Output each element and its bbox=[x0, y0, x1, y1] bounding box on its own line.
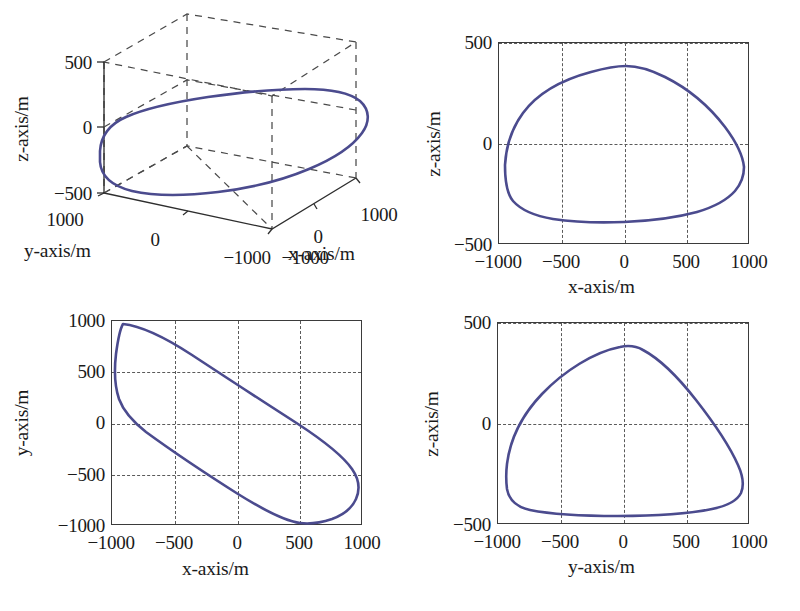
axis-title-yz-y: y-axis/m bbox=[568, 556, 635, 578]
box3d-floor bbox=[104, 146, 356, 229]
tick-yz-z-500: 500 bbox=[435, 313, 491, 332]
panel-xy-projection: 1000 500 0 −500 −1000 −1000 −500 0 500 1… bbox=[0, 290, 400, 590]
tick-yz-y-0: 0 bbox=[618, 532, 627, 551]
panel-xy-canvas bbox=[112, 321, 363, 526]
tick-yz-y-neg500: −500 bbox=[541, 532, 579, 551]
tick-yz-y-neg1000: −1000 bbox=[473, 532, 520, 551]
tick-xz-x-0: 0 bbox=[619, 252, 628, 271]
tick-yz-z-0: 0 bbox=[435, 414, 491, 433]
plotbox-xz bbox=[498, 42, 749, 244]
axis-title-xy-y: y-axis/m bbox=[11, 373, 33, 473]
tick-3d-z-500: 500 bbox=[40, 53, 92, 72]
axis-title-3d-z: z-axis/m bbox=[11, 79, 33, 179]
tick-3d-y-0: 0 bbox=[150, 230, 159, 249]
axis3d-z bbox=[97, 62, 356, 193]
trajectory-curve-xz bbox=[505, 66, 744, 222]
tick-3d-z-0: 0 bbox=[40, 118, 92, 137]
tick-xy-x-1000: 1000 bbox=[344, 533, 381, 552]
trajectory-curve-yz bbox=[506, 346, 742, 516]
figure-caption bbox=[0, 599, 800, 611]
axis-title-yz-z: z-axis/m bbox=[421, 374, 443, 474]
tick-xy-x-500: 500 bbox=[285, 533, 313, 552]
tick-xy-x-0: 0 bbox=[232, 533, 241, 552]
panel-yz-canvas bbox=[498, 323, 750, 525]
figure-root: 500 0 −500 1000 0 −1000 −1000 0 1000 z-a… bbox=[0, 0, 800, 611]
box3d-back-frame bbox=[104, 14, 356, 229]
panel-xz-canvas bbox=[499, 43, 750, 245]
tick-xz-x-neg1000: −1000 bbox=[474, 252, 521, 271]
tick-xz-x-neg500: −500 bbox=[542, 252, 580, 271]
trajectory-curve-xy bbox=[115, 324, 358, 523]
tick-xy-y-0: 0 bbox=[43, 413, 105, 432]
tick-xy-y-1000: 1000 bbox=[43, 311, 105, 330]
tick-3d-x-1000: 1000 bbox=[361, 205, 398, 224]
tick-xz-x-1000: 1000 bbox=[731, 252, 768, 271]
panel-yz-projection: 500 0 −500 −1000 −500 0 500 1000 z-axis/… bbox=[400, 290, 800, 590]
tick-xy-y-neg500: −500 bbox=[35, 465, 105, 484]
axis-title-3d-y: y-axis/m bbox=[24, 240, 91, 262]
plotbox-yz bbox=[497, 322, 749, 524]
tick-xy-y-500: 500 bbox=[43, 362, 105, 381]
panel-xz-projection: 500 0 −500 −1000 −500 0 500 1000 z-axis/… bbox=[400, 0, 800, 290]
tick-xz-z-500: 500 bbox=[436, 33, 492, 52]
tick-yz-y-1000: 1000 bbox=[731, 532, 768, 551]
axis-title-xy-x: x-axis/m bbox=[182, 558, 249, 580]
tick-3d-y-neg1000: −1000 bbox=[223, 248, 270, 267]
tick-3d-z-neg500: −500 bbox=[34, 184, 92, 203]
panel-3d-trajectory: 500 0 −500 1000 0 −1000 −1000 0 1000 z-a… bbox=[0, 0, 400, 290]
axis-title-xz-z: z-axis/m bbox=[423, 94, 445, 194]
tick-3d-y-1000: 1000 bbox=[47, 210, 84, 229]
tick-xz-x-500: 500 bbox=[672, 252, 700, 271]
axis-title-3d-x: x-axis/m bbox=[288, 243, 355, 265]
tick-xy-x-neg500: −500 bbox=[155, 533, 193, 552]
tick-yz-y-500: 500 bbox=[672, 532, 700, 551]
tick-xy-x-neg1000: −1000 bbox=[87, 533, 134, 552]
plotbox-xy bbox=[111, 320, 362, 525]
